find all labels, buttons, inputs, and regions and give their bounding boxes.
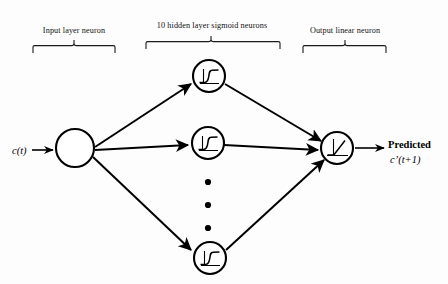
edge-hidden-1-to-output (225, 84, 321, 141)
neuron-hidden-10[interactable] (194, 242, 226, 274)
neural-network-diagram: Input layer neuron 10 hidden layer sigmo… (0, 0, 448, 284)
brace-output-label: Output linear neuron (310, 26, 380, 35)
brace-input-label: Input layer neuron (43, 26, 105, 35)
diagram-canvas: Input layer neuron 10 hidden layer sigmo… (0, 0, 448, 284)
ellipsis-dot (205, 179, 211, 185)
brace-hidden (146, 36, 280, 49)
neuron-input-1[interactable] (56, 129, 94, 167)
edge-input-to-hidden-10 (93, 157, 191, 250)
edge-hidden-10-to-output (226, 160, 324, 250)
brace-hidden-label: 10 hidden layer sigmoid neurons (157, 21, 267, 30)
neuron-hidden-1[interactable] (193, 60, 225, 92)
output-signal-label: c’(t+1) (390, 154, 421, 166)
ellipsis-dot (205, 225, 211, 231)
input-signal-label: c(t) (12, 145, 27, 157)
hidden-layer-ellipsis (205, 179, 211, 231)
input-neuron-circle[interactable] (56, 129, 94, 167)
ellipsis-dot (205, 202, 211, 208)
neuron-hidden-2[interactable] (192, 127, 224, 159)
edge-hidden-2-to-output (224, 145, 318, 150)
brace-output (303, 40, 386, 53)
brace-input (33, 40, 115, 53)
neuron-output-1[interactable] (321, 132, 353, 164)
edge-input-to-hidden-2 (95, 145, 188, 150)
output-caption-label: Predicted (388, 139, 431, 150)
edge-input-to-hidden-1 (95, 84, 191, 147)
output-neuron-circle[interactable] (321, 132, 353, 164)
